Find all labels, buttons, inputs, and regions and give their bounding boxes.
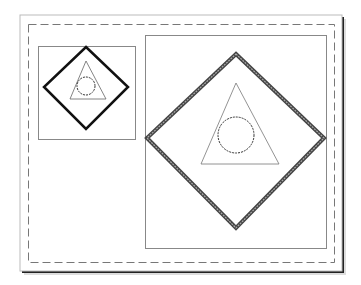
paper [20,15,346,275]
drawing-sheet [0,0,361,285]
paper-sheet [20,15,342,271]
